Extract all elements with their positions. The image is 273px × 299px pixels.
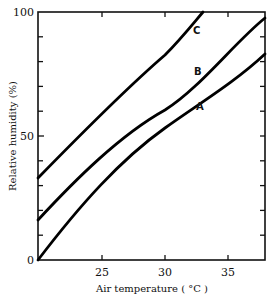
curve-label-c: C <box>193 25 200 36</box>
x-axis-title: Air temperature ( °C ) <box>95 283 208 294</box>
y-axis-title: Relative humidity (%) <box>7 81 18 191</box>
y-tick-label-100: 100 <box>13 6 34 19</box>
x-tick-label-30: 30 <box>158 266 172 279</box>
y-tick-label-50: 50 <box>20 130 34 143</box>
x-tick-label-25: 25 <box>95 266 109 279</box>
x-tick-label-35: 35 <box>221 266 235 279</box>
y-tick-label-0: 0 <box>27 254 34 267</box>
curve-b <box>38 18 265 220</box>
y-axis-ticks-left <box>38 37 44 235</box>
humidity-temperature-chart: C B A 100 50 0 25 30 35 Air temperature … <box>0 0 273 299</box>
curve-c <box>38 12 203 178</box>
curve-a <box>38 54 265 260</box>
x-axis-ticks <box>102 12 228 260</box>
curve-label-a: A <box>196 101 204 112</box>
curve-label-b: B <box>194 66 202 77</box>
